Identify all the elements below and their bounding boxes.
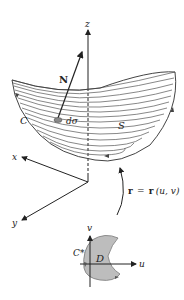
mapping-rhs-func: r: [149, 186, 154, 196]
mapping-rhs-args: (u, v): [156, 186, 180, 196]
area-element-patch: [54, 118, 62, 123]
boundary-c-arrows: [15, 93, 174, 158]
x-axis-label: x: [12, 152, 17, 162]
boundary-cstar-label: C*: [73, 248, 85, 258]
normal-vector-n: [58, 52, 82, 118]
u-axis-label: u: [139, 259, 145, 269]
surface-integral-diagram: z x y N C dσ S r = r (u, v) u v D C*: [0, 0, 184, 300]
boundary-c-label: C: [20, 115, 28, 126]
surface-s: [12, 72, 176, 161]
normal-label: N: [59, 74, 68, 85]
area-element-label: dσ: [66, 116, 79, 126]
mapping-equals: =: [137, 186, 145, 196]
x-axis: [22, 157, 88, 182]
y-axis-label: y: [11, 218, 18, 228]
mapping-lhs: r: [128, 186, 133, 196]
v-axis-label: v: [87, 223, 92, 233]
y-axis: [22, 182, 88, 220]
mapping-arrow: [117, 168, 123, 215]
parameter-domain: [80, 235, 136, 287]
z-axis-label: z: [84, 19, 90, 29]
mapping-equation: r = r (u, v): [128, 186, 180, 196]
region-d-label: D: [95, 253, 104, 264]
surface-s-label: S: [118, 120, 125, 131]
